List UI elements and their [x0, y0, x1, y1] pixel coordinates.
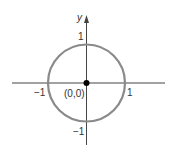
- origin-label: (0,0): [64, 88, 85, 99]
- y-axis-arrow-icon: [84, 15, 89, 23]
- x-tick-label-pos1: 1: [127, 87, 133, 98]
- unit-circle-diagram: y 1 −1 −1 1 (0,0): [0, 0, 173, 152]
- y-axis-label: y: [76, 12, 83, 23]
- y-tick-label-neg1: −1: [73, 126, 85, 137]
- origin-point: [84, 80, 90, 86]
- y-tick-label-pos1: 1: [78, 31, 84, 42]
- x-tick-label-neg1: −1: [34, 87, 46, 98]
